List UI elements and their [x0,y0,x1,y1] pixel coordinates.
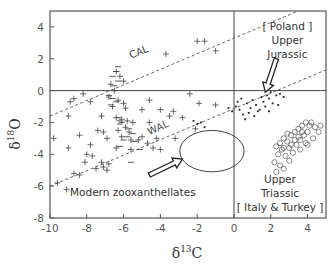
dot-marker [250,107,252,109]
dot-marker [253,115,255,117]
circle-marker [281,166,286,171]
plus-marker [157,107,163,113]
circle-marker [311,136,316,141]
y-axis-title-tail: O [7,118,23,129]
x-axis-title-tail: C [192,245,203,261]
plus-marker [104,135,110,141]
series-dot [193,91,285,128]
plus-marker [194,38,200,44]
annotation-line: Modern zooxanthellates [70,186,196,198]
y-tick-label: -2 [34,116,44,128]
plus-marker [126,129,132,135]
y-axis-title-base: δ [7,141,23,149]
x-tick-label: 2 [267,222,274,234]
plus-marker [67,99,73,105]
y-tick-label: 0 [37,85,44,97]
dot-marker [257,110,259,112]
plus-marker [167,113,173,119]
plus-marker [163,51,169,57]
italy-turkey-triassic-label: UpperTriassic[ Italy & Turkey ] [237,173,324,213]
dot-marker [277,104,279,106]
plus-marker [84,151,90,157]
y-tick-label: 4 [37,21,44,33]
dot-marker [246,102,248,104]
zooxanthellate-arrow-icon [148,158,182,177]
circle-marker [312,125,317,130]
plus-marker [113,145,119,151]
annotation-line: Jurassic [266,48,307,60]
plus-marker [54,180,60,186]
circle-marker [277,141,282,146]
series-circle [272,120,323,175]
plus-marker [196,100,202,106]
circle-marker [316,129,321,134]
dot-marker [268,110,270,112]
plus-marker [100,129,106,135]
annotation-line: [ Poland ] [262,20,312,32]
dot-marker [200,122,202,124]
plus-marker [111,88,117,94]
x-tick-label: -6 [118,222,129,234]
plus-marker [139,107,145,113]
plus-marker [93,166,99,172]
plus-marker [71,96,77,102]
jurassic-arrow-icon [263,58,279,92]
plus-marker [117,73,123,79]
series-plus [51,38,219,192]
plus-marker [64,186,70,192]
annotations: CALWAL[ Poland ]UpperJurassicUpperTriass… [70,20,323,213]
dot-marker [275,94,277,96]
dot-marker [248,112,250,114]
plus-marker [145,140,151,146]
x-tick-label: 4 [304,222,311,234]
y-axis-title-sup: 18 [6,130,16,142]
x-tick-label: -8 [82,222,92,234]
plus-marker [157,147,163,153]
plus-marker [95,127,101,133]
dot-marker [279,93,281,95]
dot-marker [242,114,244,116]
x-axis-title-sup: 13 [180,244,192,254]
scatter-plot: -10-8-6-4-2024-8-6-4-2024 CALWAL[ Poland… [0,0,336,269]
plus-marker [108,81,114,87]
dot-marker [263,101,265,103]
plus-marker [119,134,125,140]
plus-marker [121,78,127,84]
plus-marker [110,104,116,110]
plus-marker [106,94,112,100]
plus-marker [179,115,185,121]
x-tick-label: 0 [231,222,238,234]
circle-marker [294,142,299,147]
plus-marker [104,167,110,173]
circle-marker [298,147,303,152]
plus-marker [213,102,219,108]
plus-marker [150,145,156,151]
dot-marker [266,94,268,96]
x-tick-label: -2 [192,222,202,234]
plus-marker [146,97,152,103]
plus-marker [139,134,145,140]
dot-marker [252,99,254,101]
plus-marker [124,118,130,124]
plus-marker [82,159,88,165]
plus-marker [128,137,134,143]
dot-marker [196,123,198,125]
circle-marker [290,150,295,155]
circle-marker [287,158,292,163]
circle-marker [272,160,277,165]
dot-marker [231,110,233,112]
dot-marker [272,102,274,104]
trend-line-wal [50,70,326,186]
annotation-line: Upper [264,173,296,185]
dot-marker [283,96,285,98]
y-tick-label: -6 [34,180,45,192]
dot-marker [237,101,239,103]
dot-marker [235,106,237,108]
plus-marker [87,99,93,105]
cal-line-label: CAL [128,43,151,61]
y-axis-title: δ18O [6,118,23,149]
dot-marker [204,126,206,128]
annotation-line: Upper [271,34,303,46]
x-axis-title: δ13C [172,244,203,261]
circle-marker [318,123,323,128]
